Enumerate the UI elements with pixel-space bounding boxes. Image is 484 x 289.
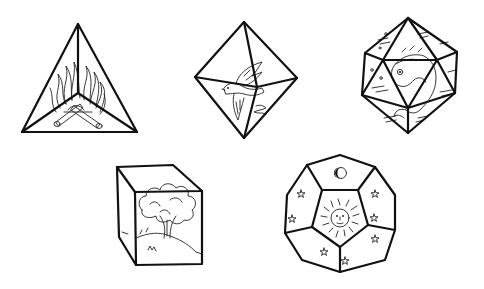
cube-earth [117,165,202,265]
bird-icon [222,62,266,120]
dodecahedron-cosmos [285,155,395,272]
icosahedron-water [362,18,457,133]
water-ripples [371,32,456,122]
platonic-solids-illustration: Tetrahedron — Fire Octahedron — Air Icos… [0,0,484,289]
octahedron-air [195,22,297,138]
tetrahedron-fire [22,24,137,132]
moon-icon [334,168,347,179]
sun-icon [321,199,359,237]
